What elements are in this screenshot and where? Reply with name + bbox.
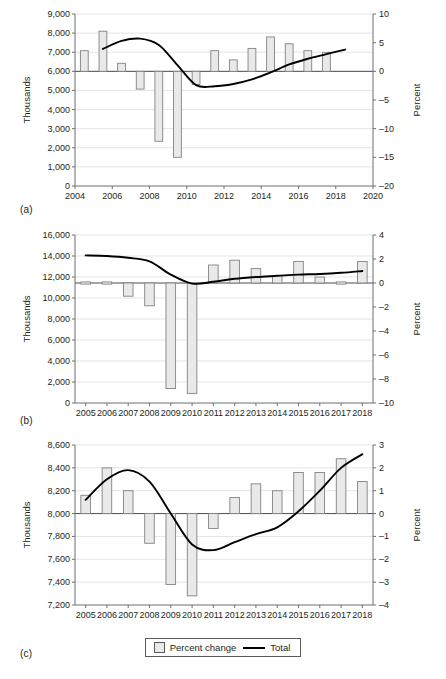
bar bbox=[145, 283, 155, 306]
bar bbox=[251, 484, 261, 514]
bar bbox=[102, 282, 112, 284]
y2-tick-label: –4 bbox=[379, 326, 389, 336]
bar bbox=[315, 277, 325, 283]
bar bbox=[336, 282, 346, 284]
x-tick-label: 2004 bbox=[65, 191, 85, 201]
x-tick-label: 2010 bbox=[177, 191, 197, 201]
y-tick-label: 4,000 bbox=[47, 356, 70, 366]
chart-panel-c: 7,2007,4007,6007,8008,0008,2008,4008,600… bbox=[0, 437, 446, 637]
x-tick-label: 2011 bbox=[204, 408, 223, 418]
y2-tick-label: –2 bbox=[379, 554, 389, 564]
y2-tick-label: 5 bbox=[379, 38, 384, 48]
bar bbox=[174, 71, 182, 157]
x-tick-label: 2008 bbox=[139, 191, 159, 201]
x-tick-label: 2010 bbox=[182, 408, 202, 418]
bar bbox=[123, 491, 133, 514]
legend-bar-swatch-icon bbox=[154, 642, 165, 653]
y2-tick-label: –20 bbox=[379, 181, 394, 191]
bar bbox=[166, 283, 176, 389]
legend-line-label: Total bbox=[270, 642, 290, 653]
chart-svg-b: 02,0004,0006,0008,00010,00012,00014,0001… bbox=[0, 225, 446, 437]
y-tick-label: 1,000 bbox=[47, 162, 70, 172]
y-tick-label: 6,000 bbox=[47, 335, 70, 345]
bar bbox=[209, 265, 219, 283]
bar bbox=[118, 63, 126, 71]
y-tick-label: 8,400 bbox=[47, 463, 70, 473]
bar bbox=[187, 283, 197, 393]
x-tick-label: 2008 bbox=[139, 408, 159, 418]
y2-tick-label: –8 bbox=[379, 374, 389, 384]
bar bbox=[99, 31, 107, 71]
y-axis-title: Thousands bbox=[21, 76, 32, 123]
y-tick-label: 2,000 bbox=[47, 377, 70, 387]
legend-item-total: Total bbox=[243, 642, 290, 653]
x-tick-label: 2015 bbox=[288, 408, 308, 418]
y-tick-label: 3,000 bbox=[47, 124, 70, 134]
x-tick-label: 2012 bbox=[214, 191, 234, 201]
y2-tick-label: –6 bbox=[379, 350, 389, 360]
bar bbox=[304, 51, 312, 72]
y-tick-label: 7,600 bbox=[47, 554, 70, 564]
y-tick-label: 7,200 bbox=[47, 600, 70, 610]
bar bbox=[145, 514, 155, 544]
bar bbox=[102, 468, 112, 514]
x-tick-label: 2007 bbox=[118, 610, 138, 620]
y2-tick-label: –4 bbox=[379, 600, 389, 610]
chart-svg-a: 01,0002,0003,0004,0005,0006,0007,0008,00… bbox=[0, 0, 446, 222]
figure-three-panel-chart: 01,0002,0003,0004,0005,0006,0007,0008,00… bbox=[0, 0, 446, 679]
y-tick-label: 8,000 bbox=[47, 509, 70, 519]
bar bbox=[230, 498, 240, 514]
y-tick-label: 0 bbox=[65, 398, 70, 408]
y-tick-label: 7,800 bbox=[47, 531, 70, 541]
y-tick-label: 4,000 bbox=[47, 105, 70, 115]
x-tick-label: 2006 bbox=[97, 610, 117, 620]
bar bbox=[229, 60, 237, 71]
y2-tick-label: –15 bbox=[379, 152, 394, 162]
x-tick-label: 2015 bbox=[288, 610, 308, 620]
y-tick-label: 2,000 bbox=[47, 143, 70, 153]
bar bbox=[248, 48, 256, 71]
y2-tick-label: 10 bbox=[379, 9, 389, 19]
x-tick-label: 2018 bbox=[352, 610, 372, 620]
x-tick-label: 2009 bbox=[161, 610, 181, 620]
panel-label-a: (a) bbox=[20, 204, 33, 215]
legend-box: Percent change Total bbox=[145, 638, 302, 657]
bar bbox=[211, 51, 219, 72]
x-tick-label: 2010 bbox=[182, 610, 202, 620]
chart-legend: Percent change Total bbox=[0, 638, 446, 657]
bar bbox=[285, 44, 293, 72]
y-tick-label: 8,000 bbox=[47, 28, 70, 38]
x-tick-label: 2016 bbox=[288, 191, 308, 201]
x-tick-label: 2014 bbox=[267, 610, 287, 620]
y-tick-label: 10,000 bbox=[42, 293, 70, 303]
bar bbox=[358, 482, 368, 514]
x-tick-label: 2007 bbox=[118, 408, 138, 418]
legend-item-percent-change: Percent change bbox=[154, 642, 237, 653]
bar bbox=[187, 514, 197, 596]
x-tick-label: 2017 bbox=[331, 408, 351, 418]
y-axis-title: Thousands bbox=[21, 295, 32, 342]
chart-panel-b: 02,0004,0006,0008,00010,00012,00014,0001… bbox=[0, 225, 446, 437]
bar bbox=[251, 269, 261, 283]
y-tick-label: 9,000 bbox=[47, 9, 70, 19]
gridlines bbox=[75, 14, 373, 167]
bar bbox=[81, 495, 91, 513]
bar bbox=[123, 283, 133, 296]
bar bbox=[80, 51, 88, 72]
x-tick-label: 2014 bbox=[251, 191, 271, 201]
y2-tick-label: 3 bbox=[379, 440, 384, 450]
bar bbox=[166, 514, 176, 585]
y2-tick-label: 0 bbox=[379, 278, 384, 288]
x-tick-label: 2012 bbox=[225, 610, 245, 620]
y2-tick-label: 1 bbox=[379, 486, 384, 496]
x-tick-label: 2009 bbox=[161, 408, 181, 418]
y2-tick-label: –10 bbox=[379, 398, 394, 408]
y2-tick-label: 2 bbox=[379, 463, 384, 473]
x-tick-label: 2020 bbox=[363, 191, 383, 201]
x-tick-label: 2017 bbox=[331, 610, 351, 620]
y2-tick-label: –5 bbox=[379, 95, 389, 105]
legend-bar-label: Percent change bbox=[170, 642, 237, 653]
x-tick-label: 2006 bbox=[102, 191, 122, 201]
y2-tick-label: –2 bbox=[379, 302, 389, 312]
x-tick-label: 2012 bbox=[225, 408, 245, 418]
